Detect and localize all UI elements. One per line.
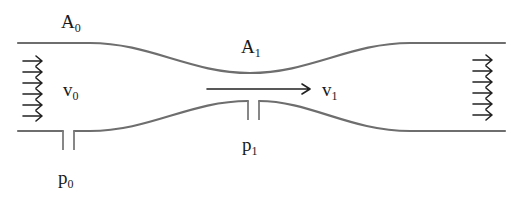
label-subscript: 0 [68, 177, 74, 191]
label-base: v [63, 79, 73, 100]
label-subscript: 1 [255, 46, 261, 60]
bottom-wall-converging [74, 101, 248, 131]
inlet-flow-arrows-icon [23, 56, 42, 121]
label-pressure-throat: p1 [242, 135, 258, 157]
label-subscript: 1 [332, 89, 338, 103]
label-velocity-inlet: v0 [63, 80, 79, 102]
pressure-tap-inlet [63, 131, 74, 150]
bottom-wall-diverging [259, 101, 505, 131]
label-pressure-inlet: p0 [58, 168, 74, 190]
throat-velocity-arrow-icon [207, 84, 310, 94]
label-subscript: 0 [73, 89, 79, 103]
label-base: p [58, 167, 68, 188]
label-velocity-throat: v1 [322, 80, 338, 102]
label-base: A [61, 11, 75, 32]
label-base: p [242, 134, 252, 155]
top-wall [18, 43, 505, 73]
pressure-tap-throat [248, 101, 259, 120]
label-subscript: 1 [252, 144, 258, 158]
outlet-flow-arrows-icon [473, 55, 492, 120]
label-base: v [322, 79, 332, 100]
label-subscript: 0 [75, 21, 81, 35]
label-base: A [241, 36, 255, 57]
label-area-inlet: A0 [61, 12, 81, 34]
label-area-throat: A1 [241, 37, 261, 59]
